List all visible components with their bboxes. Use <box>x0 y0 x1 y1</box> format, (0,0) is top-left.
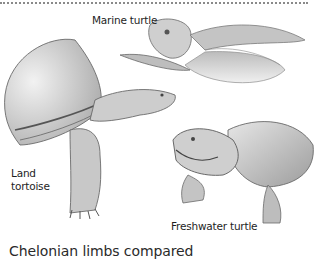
label-land-tortoise-line1: Land <box>11 167 50 180</box>
dotted-divider <box>0 2 308 4</box>
label-land-tortoise-line2: tortoise <box>11 180 50 193</box>
label-marine-turtle: Marine turtle <box>92 14 157 27</box>
figure-caption: Chelonian limbs compared <box>9 243 193 259</box>
freshwater-turtle-illustration <box>168 115 316 225</box>
label-freshwater-turtle: Freshwater turtle <box>171 220 257 233</box>
label-land-tortoise: Land tortoise <box>11 167 50 193</box>
